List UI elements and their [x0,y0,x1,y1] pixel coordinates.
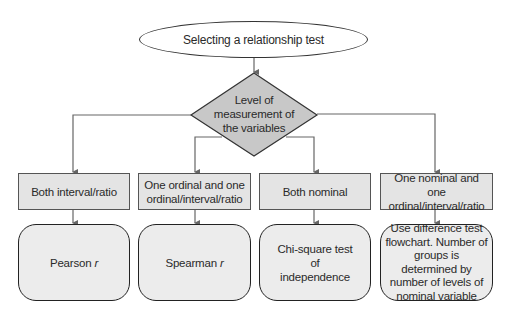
result-box-difference-test: Use difference test flowchart. Number of… [380,224,493,301]
condition-label: Both nominal [283,185,348,199]
condition-box-nominal: Both nominal [259,173,371,210]
condition-label: One nominal and one ordinal/interval/rat… [385,171,488,213]
condition-label: Both interval/ratio [31,185,117,199]
start-ellipse: Selecting a relationship test [139,21,368,58]
result-label: Use difference test flowchart. Number of… [385,222,488,303]
result-box-pearson: Pearson r [18,224,130,301]
flowchart-title: Selecting a relationship test [183,33,324,47]
decision-line-1: Level of [235,93,274,107]
result-label: Spearman r [165,256,223,270]
condition-label: One ordinal and one ordinal/interval/rat… [143,178,246,206]
decision-line-3: the variables [223,121,286,135]
decision-line-2: measurement of [214,107,294,121]
result-label: Chi-square test of independence [274,242,356,284]
decision-label: Level of measurement of the variables [205,90,303,138]
condition-box-interval-ratio: Both interval/ratio [18,173,130,210]
result-box-chi-square: Chi-square test of independence [259,224,371,301]
result-label: Pearson r [50,256,98,270]
r-symbol: r [220,257,224,269]
condition-box-ordinal: One ordinal and one ordinal/interval/rat… [138,173,251,210]
r-symbol: r [94,257,98,269]
result-box-spearman: Spearman r [138,224,251,301]
condition-box-nominal-mixed: One nominal and one ordinal/interval/rat… [380,173,493,210]
